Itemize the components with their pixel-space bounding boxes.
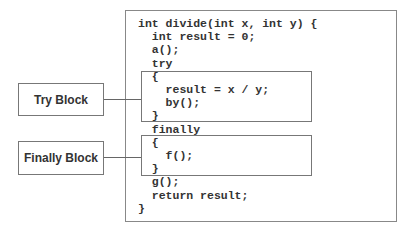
code-line: a(); <box>138 43 179 56</box>
code-line: g(); <box>138 175 179 188</box>
try-block-outline <box>141 71 312 122</box>
finally-block-outline <box>141 135 312 176</box>
code-line: int result = 0; <box>138 30 255 43</box>
code-line: return result; <box>138 189 248 202</box>
finally-connector-line <box>104 157 141 158</box>
code-line: int divide(int x, int y) { <box>138 17 317 30</box>
code-line: try <box>138 57 173 70</box>
code-line: finally <box>138 123 200 136</box>
finally-block-label: Finally Block <box>18 141 104 175</box>
try-connector-line <box>104 99 141 100</box>
code-line: } <box>138 202 145 215</box>
try-block-label: Try Block <box>18 83 104 116</box>
